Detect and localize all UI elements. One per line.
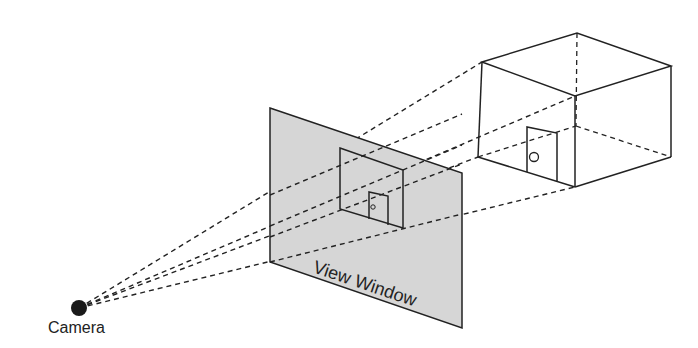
perspective-projection-diagram: View Window Camera bbox=[0, 0, 698, 348]
view-window-plane: View Window bbox=[270, 108, 462, 328]
camera-dot bbox=[71, 300, 87, 316]
camera-label: Camera bbox=[48, 319, 105, 336]
doorknob bbox=[530, 153, 539, 162]
scene-box bbox=[478, 33, 671, 187]
diagram-canvas: View Window Camera bbox=[0, 0, 698, 348]
